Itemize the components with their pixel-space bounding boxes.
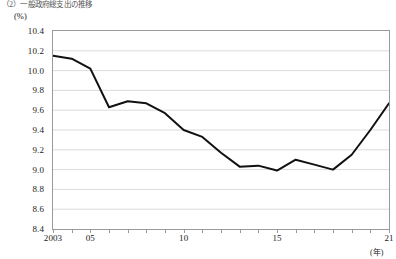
- y-tick-label: 9.0: [0, 165, 44, 175]
- y-tick-label: 8.8: [0, 184, 44, 194]
- x-tick-mark: [146, 229, 147, 233]
- x-tick-mark: [221, 229, 222, 233]
- x-tick-label: 2003: [44, 233, 62, 243]
- y-tick-label: 9.4: [0, 125, 44, 135]
- x-tick-label: 21: [384, 233, 393, 243]
- data-series-line: [53, 56, 389, 171]
- x-tick-mark: [109, 229, 110, 233]
- gridlines: [53, 51, 389, 209]
- x-tick-mark: [370, 229, 371, 233]
- figure-caption: （2）一般政府総支出の推移: [2, 0, 92, 9]
- x-tick-label: 15: [272, 233, 281, 243]
- y-tick-label: 9.2: [0, 145, 44, 155]
- x-tick-mark: [202, 229, 203, 233]
- x-tick-mark: [128, 229, 129, 233]
- y-tick-label: 9.8: [0, 85, 44, 95]
- y-axis-unit-label: (%): [14, 11, 27, 21]
- y-tick-label: 10.0: [0, 66, 44, 76]
- x-tick-mark: [352, 229, 353, 233]
- x-tick-mark: [333, 229, 334, 233]
- y-tick-label: 9.6: [0, 105, 44, 115]
- line-chart-svg: [53, 31, 389, 229]
- chart-figure: （2）一般政府総支出の推移 (%) 10.410.210.09.89.69.49…: [0, 0, 396, 259]
- plot-area: [52, 30, 390, 230]
- x-axis-unit-label: (年): [370, 246, 383, 257]
- y-tick-label: 8.4: [0, 224, 44, 234]
- x-tick-mark: [72, 229, 73, 233]
- y-tick-label: 10.4: [0, 26, 44, 36]
- y-tick-label: 10.2: [0, 46, 44, 56]
- x-tick-mark: [165, 229, 166, 233]
- x-tick-mark: [258, 229, 259, 233]
- y-tick-label: 8.6: [0, 204, 44, 214]
- x-tick-label: 10: [179, 233, 188, 243]
- x-tick-mark: [240, 229, 241, 233]
- x-tick-label: 05: [86, 233, 95, 243]
- x-tick-mark: [314, 229, 315, 233]
- x-tick-mark: [296, 229, 297, 233]
